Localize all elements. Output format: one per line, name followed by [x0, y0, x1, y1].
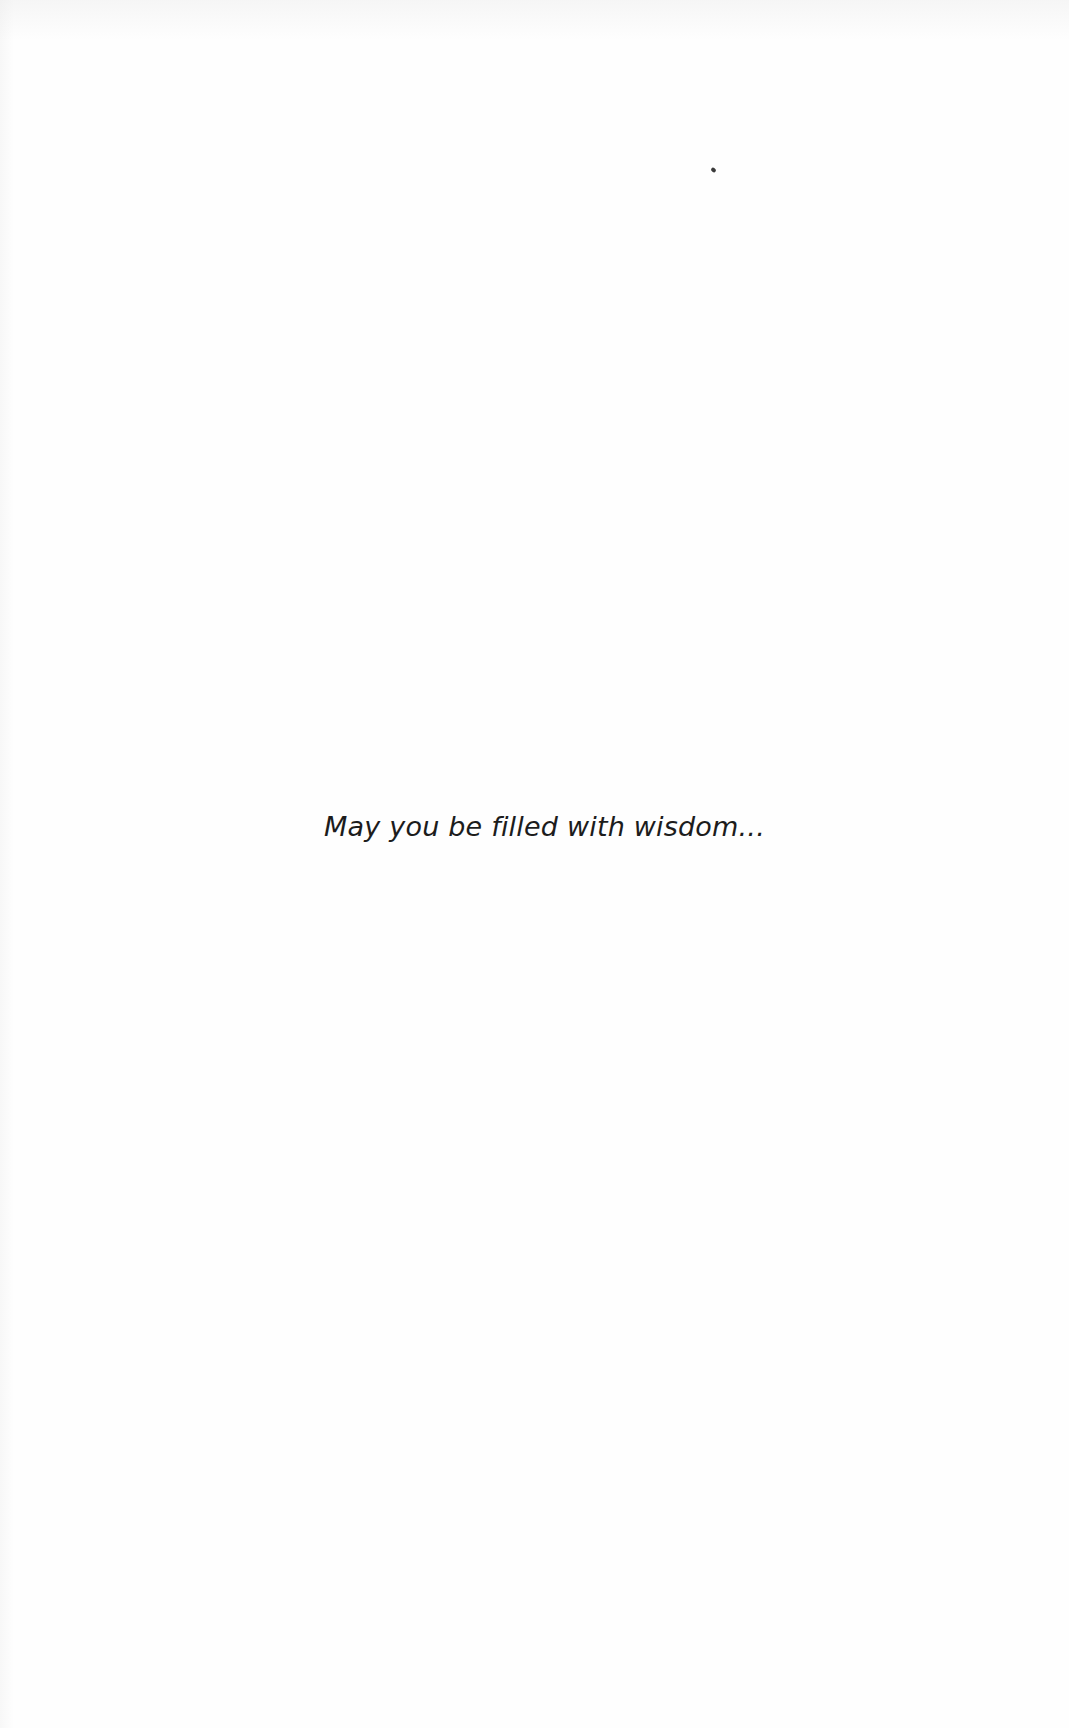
scan-artifact — [710, 167, 716, 173]
epigraph-text: May you be filled with wisdom... — [0, 811, 1069, 842]
document-page: May you be filled with wisdom... — [0, 0, 1069, 1728]
